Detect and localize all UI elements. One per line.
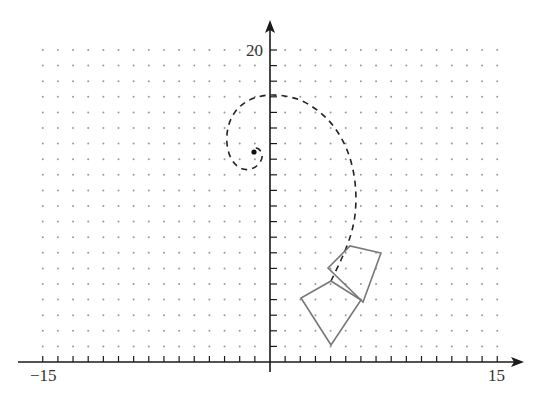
- square-shape-2: [328, 246, 381, 302]
- spiral-path: [227, 95, 356, 281]
- y-axis: [265, 20, 277, 372]
- x-axis: [18, 356, 524, 367]
- x-axis-label-max: 15: [488, 367, 505, 384]
- coordinate-plane: [0, 0, 535, 403]
- y-axis-label-max: 20: [246, 42, 263, 59]
- rotation-center-point: [251, 149, 256, 154]
- x-axis-label-min: −15: [30, 367, 57, 384]
